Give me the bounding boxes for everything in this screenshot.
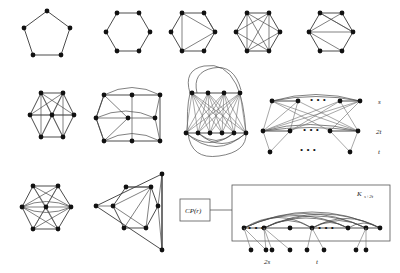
ellipsis-middle: • • • — [303, 125, 319, 135]
ellipsis-box-right: • • • — [318, 223, 334, 233]
vertex — [261, 129, 266, 134]
graph-pentagon-c5 — [22, 9, 73, 58]
label-bottom-t: t — [316, 258, 319, 266]
vertex — [137, 11, 142, 16]
vertex — [61, 91, 66, 96]
vertex — [124, 185, 129, 190]
graph-cocktail-party-schematic: CP(r) K s+2t — [180, 185, 390, 266]
vertex — [156, 204, 161, 209]
ellipsis-bottom: • • • — [300, 145, 316, 155]
vertex — [115, 49, 120, 54]
vertex — [202, 11, 207, 16]
vertex — [31, 184, 36, 189]
vertex — [72, 113, 77, 118]
vertex — [180, 49, 185, 54]
label-part-t: t — [378, 148, 381, 156]
figure-canvas: • • • • • • • • • s 2t t — [0, 0, 400, 273]
vertex — [346, 226, 351, 231]
clique-label-base: K — [356, 190, 362, 198]
vertex — [137, 49, 142, 54]
vertex — [307, 30, 312, 35]
vertex — [153, 116, 158, 121]
vertex — [61, 135, 66, 140]
vertex — [270, 99, 275, 104]
graph-wheel-w6-center — [28, 91, 77, 140]
vertex — [160, 248, 165, 253]
vertex — [234, 30, 239, 35]
vertex — [111, 204, 116, 209]
vertex — [68, 26, 73, 31]
vertex — [169, 30, 174, 35]
vertex — [144, 226, 149, 231]
vertex — [222, 91, 227, 96]
vertex — [149, 185, 154, 190]
graph-complete-bipartite-oval — [184, 65, 249, 156]
cp-box-label: CP(r) — [185, 207, 202, 215]
vertex — [115, 11, 120, 16]
vertex — [238, 91, 243, 96]
vertex — [264, 248, 269, 253]
vertex — [158, 139, 163, 144]
vertex — [340, 11, 345, 16]
vertex — [270, 248, 275, 253]
vertex — [190, 91, 195, 96]
vertex — [122, 226, 127, 231]
vertex — [31, 53, 36, 58]
vertex — [130, 93, 135, 98]
vertex — [354, 248, 359, 253]
ellipsis-box-left: • • • — [248, 223, 264, 233]
vertex — [338, 99, 343, 104]
vertex — [296, 99, 301, 104]
vertex — [213, 30, 218, 35]
vertex — [322, 248, 327, 253]
graph-hexagon-chorded-b — [307, 11, 356, 54]
vertex — [180, 11, 185, 16]
vertex — [245, 11, 250, 16]
vertex — [232, 131, 237, 136]
graph-hexagon-c6 — [104, 11, 153, 54]
vertex — [318, 11, 323, 16]
vertex — [50, 113, 55, 118]
vertex — [94, 204, 99, 209]
vertex — [69, 205, 74, 210]
ellipsis-top: • • • — [310, 95, 326, 105]
vertex — [278, 30, 283, 35]
vertex — [28, 113, 33, 118]
vertex — [196, 131, 201, 136]
graph-hexagon-chorded-a — [169, 11, 218, 54]
label-part-2t: 2t — [376, 128, 383, 136]
vertex — [267, 11, 272, 16]
vertex — [220, 131, 225, 136]
figure-root: • • • • • • • • • s 2t t — [0, 0, 400, 273]
vertex — [39, 135, 44, 140]
vertex — [208, 131, 213, 136]
graph-tripartite-construction: • • • • • • • • • s 2t t — [261, 95, 383, 157]
vertex — [305, 248, 310, 253]
graph-grid-3x3-curved — [94, 88, 163, 144]
vertex — [202, 49, 207, 54]
vertex — [104, 30, 109, 35]
vertex — [244, 131, 249, 136]
vertex — [356, 129, 361, 134]
graph-hexagon-star-chords — [234, 11, 283, 54]
vertex — [158, 93, 163, 98]
vertex — [130, 139, 135, 144]
vertex — [378, 226, 383, 231]
vertex — [39, 91, 44, 96]
vertex — [328, 129, 333, 134]
vertex — [340, 49, 345, 54]
vertex — [56, 184, 61, 189]
vertex — [351, 30, 356, 35]
vertex — [20, 205, 25, 210]
vertex — [206, 91, 211, 96]
vertex — [249, 248, 254, 253]
vertex — [59, 53, 64, 58]
vertex — [31, 227, 36, 232]
vertex — [288, 226, 293, 231]
vertex — [184, 131, 189, 136]
graph-triangular-nested — [94, 172, 165, 253]
vertex — [364, 248, 369, 253]
vertex — [245, 49, 250, 54]
graph-hexagon-center-chords — [20, 184, 74, 232]
vertex — [94, 116, 99, 121]
